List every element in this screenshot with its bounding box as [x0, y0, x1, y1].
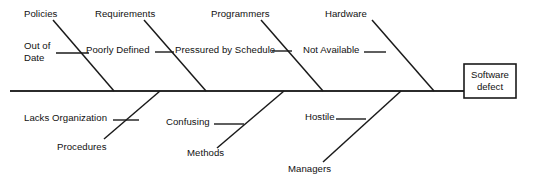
bone-requirements[interactable] — [144, 20, 206, 91]
label-procedures: Procedures — [57, 141, 107, 153]
bone-programmers[interactable] — [261, 20, 323, 91]
fishbone-diagram: Policies Requirements Programmers Hardwa… — [0, 0, 534, 183]
label-managers: Managers — [288, 163, 331, 175]
bone-policies[interactable] — [53, 20, 114, 91]
label-hardware: Hardware — [325, 8, 367, 20]
label-requirements: Requirements — [95, 8, 155, 20]
label-programmers: Programmers — [211, 8, 270, 20]
label-not-available: Not Available — [303, 44, 359, 56]
bone-procedures[interactable] — [104, 91, 160, 139]
bone-methods[interactable] — [217, 91, 284, 148]
label-confusing: Confusing — [166, 116, 210, 128]
bone-hardware[interactable] — [372, 20, 434, 91]
fishbone-lines — [0, 0, 534, 183]
label-out-of-date: Out of Date — [24, 40, 50, 63]
label-policies: Policies — [24, 8, 57, 20]
label-poorly-defined: Poorly Defined — [86, 44, 150, 56]
bone-managers[interactable] — [323, 91, 401, 162]
label-pressured-by-schedule: Pressured by Schedule — [175, 44, 275, 56]
label-methods: Methods — [187, 147, 224, 159]
label-hostile: Hostile — [305, 111, 335, 123]
effect-box-label: Software defect — [464, 69, 516, 92]
label-lacks-organization: Lacks Organization — [24, 112, 107, 124]
